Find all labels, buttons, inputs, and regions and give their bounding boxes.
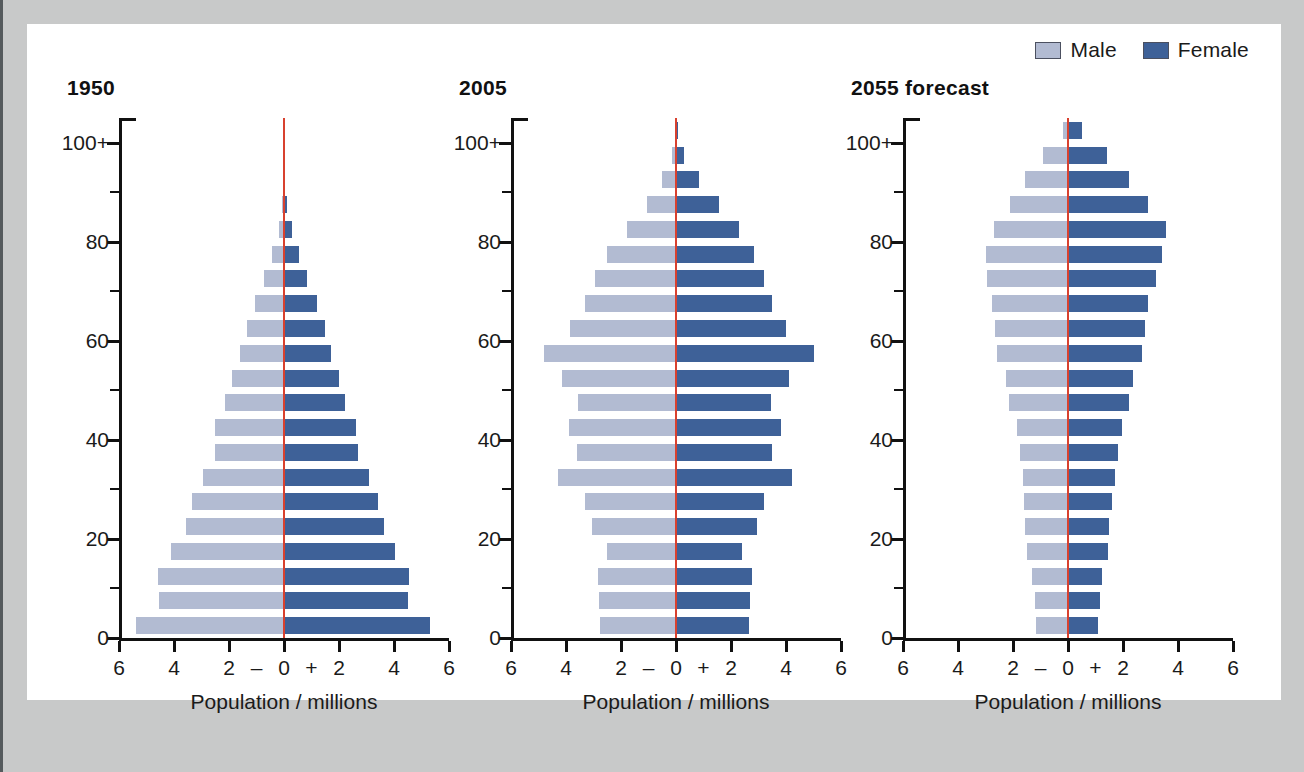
plot-area: 020406080100+6420246–+Population / milli… [903,118,1233,638]
bar-female [676,295,772,312]
bar-male [607,543,676,560]
bar-female [676,543,742,560]
bar-male [247,320,284,337]
bar-female [1068,592,1100,609]
x-axis-label: 2 [1007,656,1019,680]
bar-male [1043,147,1068,164]
x-axis-tick [228,641,231,652]
x-axis-tick [620,641,623,652]
bar-female [284,394,345,411]
bar-male [264,270,284,287]
y-axis-label: 80 [478,230,501,254]
bar-female [1068,370,1133,387]
x-axis-label: 4 [780,656,792,680]
y-axis-label: 80 [870,230,893,254]
bar-male [992,295,1068,312]
charts-row: 1950 020406080100+6420246–+Population / … [27,76,1281,696]
x-axis-label: 4 [1172,656,1184,680]
bar-female [284,345,331,362]
bar-male [1017,419,1068,436]
x-axis-tick [565,641,568,652]
bar-female [284,320,325,337]
bar-female [1068,345,1142,362]
bar-male [1010,196,1068,213]
bar-male [592,518,676,535]
plot-area: 020406080100+6420246–+Population / milli… [119,118,449,638]
figure-root: MaleFemale 1950 020406080100+6420246–+Po… [0,0,1304,772]
bar-female [676,444,772,461]
bar-male [647,196,676,213]
bar-female [1068,147,1107,164]
male-swatch-icon [1035,42,1061,59]
x-axis-label: 2 [1117,656,1129,680]
bar-female [1068,568,1102,585]
bar-female [1068,419,1122,436]
x-axis-label: 6 [505,656,517,680]
y-axis-label: 20 [870,527,893,551]
page-gutter [0,0,3,772]
bar-female [676,246,754,263]
bar-male [215,419,284,436]
bar-female [1068,444,1118,461]
bar-female [284,246,299,263]
chart-title: 2055 forecast [851,76,989,100]
bar-female [284,270,307,287]
zero-center-line [283,118,285,638]
bar-female [284,419,356,436]
y-axis-label: 0 [881,626,893,650]
y-axis-minor-tick [110,389,119,391]
bar-male [1024,493,1068,510]
bar-male [203,469,284,486]
y-axis-top-cap [119,118,136,121]
bar-male [569,419,676,436]
x-axis-tick [1122,641,1125,652]
y-axis-label: 0 [97,626,109,650]
y-axis-label: 40 [86,428,109,452]
bar-male [585,295,676,312]
x-axis-title: Population / millions [583,690,770,714]
legend: MaleFemale [1035,38,1249,62]
legend-label: Female [1178,38,1249,62]
y-axis-label: 40 [870,428,893,452]
y-axis-minor-tick [502,389,511,391]
bar-female [284,592,408,609]
x-axis-tick [173,641,176,652]
x-axis-label: 4 [952,656,964,680]
y-axis-top-cap [903,118,920,121]
bar-male [1036,617,1068,634]
x-axis-label: 2 [725,656,737,680]
x-axis-tick [675,641,678,652]
bar-female [676,147,684,164]
bar-male [171,543,284,560]
bar-male [232,370,284,387]
x-axis-title: Population / millions [191,690,378,714]
x-axis-label: 6 [897,656,909,680]
bar-male [585,493,676,510]
bar-male [578,394,676,411]
bar-female [1068,196,1148,213]
bar-female [1068,122,1082,139]
zero-center-line [675,118,677,638]
y-axis-label: 100+ [846,131,893,155]
x-axis-tick [1012,641,1015,652]
bar-female [284,568,409,585]
bar-female [676,592,750,609]
bar-male [215,444,284,461]
y-axis-minor-tick [894,587,903,589]
chart-title: 2005 [459,76,507,100]
bar-male [995,320,1068,337]
bar-male [1025,171,1068,188]
x-axis-minus-sign: – [643,656,655,680]
bar-male [1032,568,1068,585]
bar-male [570,320,676,337]
x-axis-label: 2 [333,656,345,680]
x-axis-label: 2 [615,656,627,680]
bar-male [577,444,676,461]
x-axis-label: 4 [388,656,400,680]
x-axis-label: 6 [113,656,125,680]
bar-female [284,370,339,387]
x-axis-tick [730,641,733,652]
zero-center-line [1067,118,1069,638]
x-axis-label: 4 [560,656,572,680]
y-axis-minor-tick [110,587,119,589]
